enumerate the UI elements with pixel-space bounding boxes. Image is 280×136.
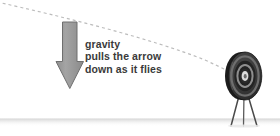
caption-line-2: pulls the arrow — [85, 50, 185, 62]
caption-line-1: gravity — [85, 38, 185, 50]
gravity-arrow-diagram: gravity pulls the arrow down as it flies — [0, 0, 280, 136]
gravity-arrow-icon — [56, 22, 84, 89]
caption-line-3: down as it flies — [85, 63, 185, 75]
caption-text-block: gravity pulls the arrow down as it flies — [85, 38, 185, 75]
archery-target-icon — [225, 52, 262, 100]
